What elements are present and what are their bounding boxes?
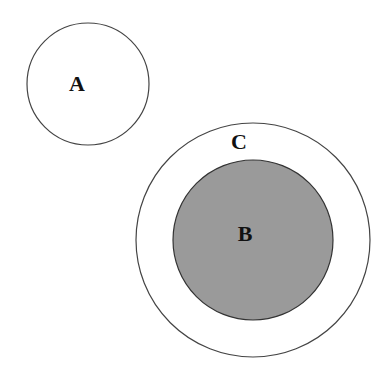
label-b: B — [238, 221, 253, 246]
diagram-svg: A C B — [0, 0, 389, 381]
label-a: A — [69, 71, 85, 96]
venn-diagram: A C B — [0, 0, 389, 381]
circle-b-shaded — [173, 160, 333, 320]
circle-a — [27, 23, 149, 145]
label-c: C — [231, 129, 247, 154]
